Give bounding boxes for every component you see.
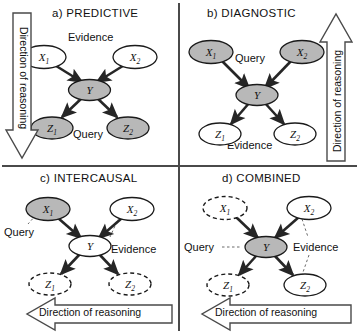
direction-label-diagnostic: Direction of reasoning (331, 46, 343, 156)
direction-arrow-predictive: Direction of reasoning (5, 12, 39, 160)
edge-y-z1 (231, 102, 250, 124)
edge-x1-y (220, 59, 249, 88)
figure-root: a) PREDICTIVE Evidence Query X1 X2 (0, 0, 359, 334)
edge-y-z1 (239, 255, 257, 275)
edge-y-z2 (274, 255, 293, 275)
edge-x1-y (58, 218, 81, 238)
direction-arrow-combined: Direction of reasoning (200, 297, 352, 331)
panel-intercausal: c) INTERCAUSAL Query Evidence X1 X2 (0, 167, 178, 334)
edge-x1-y (236, 217, 258, 238)
direction-label-intercausal: Direction of reasoning (39, 306, 141, 318)
nodes: X1 X2 Y Z1 Z2 (22, 46, 157, 140)
direction-arrow-diagnostic: Direction of reasoning (319, 12, 353, 162)
panel-combined: d) COMBINED Query Evidence X1 X2 (180, 167, 359, 334)
panel-diagnostic: b) DIAGNOSTIC Query Evidence X1 X2 Y Z1 (180, 0, 359, 165)
edge-y-z2 (99, 254, 118, 274)
nodes: X1 X2 Y Z1 Z2 (203, 197, 331, 297)
direction-arrow-intercausal: Direction of reasoning (25, 297, 173, 331)
direction-label-predictive: Direction of reasoning (18, 23, 30, 133)
leader-evidence-z2 (302, 255, 309, 275)
panel-predictive: a) PREDICTIVE Evidence Query X1 X2 (0, 0, 178, 165)
edge-x2-y (99, 218, 122, 238)
edge-x2-y (265, 59, 293, 88)
nodes: X1 X2 Y Z1 Z2 (26, 198, 154, 296)
edge-y-z2 (264, 102, 284, 124)
edge-x2-y (275, 217, 299, 238)
nodes: X1 X2 Y Z1 Z2 (189, 41, 324, 146)
edge-y-z1 (61, 254, 80, 274)
leader-evidence-x2 (302, 219, 308, 237)
direction-label-combined: Direction of reasoning (215, 306, 317, 318)
